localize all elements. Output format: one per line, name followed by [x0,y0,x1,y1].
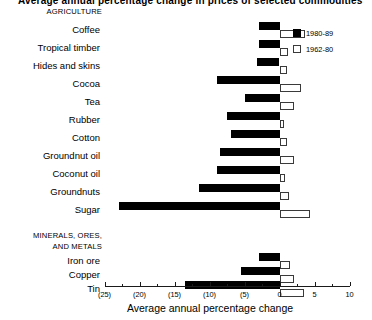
x-axis-tick [210,282,211,286]
x-axis-tick [280,282,281,286]
x-axis-tick-label: 10 [335,290,365,299]
x-axis-title: Average annual percentage change [0,302,372,314]
x-axis-tick-label: (5) [230,290,260,299]
bar-groundnut-oil-1980-89 [220,148,280,156]
bar-tropical-timber-1962-80 [280,48,288,56]
legend-item-1980-89: 1980-89 [293,27,333,39]
bar-coconut-oil-1962-80 [280,174,286,182]
legend-label: 1962-80 [306,45,333,54]
x-axis-tick [332,284,333,286]
bar-groundnut-oil-1962-80 [280,156,294,164]
x-axis-tick [157,284,158,286]
legend-label: 1980-89 [306,29,333,38]
x-axis-tick-label: 5 [300,290,330,299]
bar-iron-ore-1980-89 [259,253,280,261]
bar-cotton-1980-89 [231,130,280,138]
x-axis-tick [175,282,176,286]
x-axis-tick [262,284,263,286]
bar-iron-ore-1962-80 [280,261,291,269]
x-axis-tick [245,282,246,286]
bar-tropical-timber-1980-89 [259,40,280,48]
legend-swatch-filled-icon [293,29,301,37]
bar-copper-1962-80 [280,275,294,283]
bar-groundnuts-1980-89 [199,184,280,192]
bar-coffee-1980-89 [259,22,280,30]
chart-legend: 1980-89 1962-80 [293,27,333,59]
x-axis-line [105,286,350,287]
legend-swatch-hollow-icon [293,45,301,53]
bar-sugar-1980-89 [119,202,280,210]
bar-cocoa-1962-80 [280,84,301,92]
bar-hides-and-skins-1980-89 [257,58,279,66]
x-axis-tick-label: (15) [160,290,190,299]
legend-item-1962-80: 1962-80 [293,43,333,55]
x-axis-tick [192,284,193,286]
bar-cotton-1962-80 [280,138,287,146]
x-axis-tick-label: (20) [125,290,155,299]
x-axis-tick-label: (10) [195,290,225,299]
bar-rubber-1962-80 [280,120,284,128]
bar-hides-and-skins-1962-80 [280,66,287,74]
bar-groundnuts-1962-80 [280,192,290,200]
x-axis-tick [122,284,123,286]
bar-tea-1980-89 [245,94,280,102]
x-axis-tick-label: 0 [265,290,295,299]
x-axis-tick-label: (25) [90,290,120,299]
bar-cocoa-1980-89 [217,76,280,84]
x-axis-tick [227,284,228,286]
x-axis-tick [297,284,298,286]
bar-tea-1962-80 [280,102,294,110]
bar-copper-1980-89 [241,267,280,275]
x-axis-tick [350,282,351,286]
x-axis-tick [140,282,141,286]
bar-sugar-1962-80 [280,210,311,218]
bar-rubber-1980-89 [227,112,280,120]
bar-tin-1980-89 [185,281,280,289]
x-axis-tick [315,282,316,286]
commodity-price-change-chart: Average annual percentage change in pric… [0,0,372,320]
bar-coconut-oil-1980-89 [217,166,280,174]
x-axis-tick [105,282,106,286]
